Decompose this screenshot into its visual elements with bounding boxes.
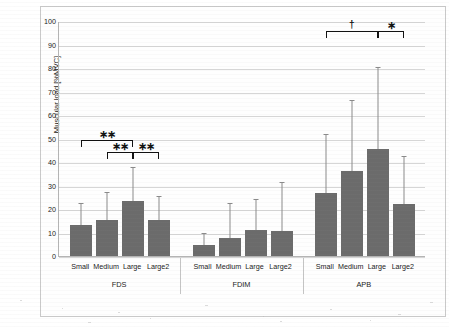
- error-bar-cap: [157, 196, 162, 197]
- scan-speck: [398, 314, 401, 315]
- bar-group-item: [271, 21, 293, 256]
- y-axis-tick-label: 70: [30, 89, 56, 96]
- bar: [341, 171, 363, 256]
- bar-group-item: [393, 21, 415, 256]
- error-bar: [81, 204, 82, 225]
- error-bar-cap: [279, 182, 284, 183]
- group-separator: [303, 258, 304, 294]
- error-bar: [133, 168, 134, 201]
- bar-group-item: [193, 21, 215, 256]
- scan-speck: [370, 320, 371, 321]
- category-label: Large2: [258, 262, 304, 271]
- bar-group-item: [341, 21, 363, 256]
- scan-speck: [205, 305, 208, 306]
- bar: [96, 220, 118, 256]
- bar-group-item: [315, 21, 337, 256]
- plot-area: ∗∗∗∗∗∗†∗: [58, 22, 425, 257]
- y-axis-tick-label: 30: [30, 183, 56, 190]
- bar: [245, 230, 267, 256]
- scan-speck: [430, 302, 433, 303]
- error-bar-cap: [131, 167, 136, 168]
- significance-bracket: [107, 152, 133, 159]
- significance-marker: ∗: [358, 20, 424, 31]
- group-label: FDS: [59, 280, 179, 289]
- group-separator: [180, 258, 181, 294]
- y-axis-tick-labels: 0102030405060708090100: [26, 22, 56, 257]
- bar: [148, 220, 170, 256]
- error-bar: [255, 200, 256, 231]
- figure-container: Muscular load [%MVC] 0102030405060708090…: [0, 0, 449, 330]
- error-bar-cap: [323, 134, 328, 135]
- significance-marker: ∗∗: [113, 141, 179, 152]
- error-bar: [377, 68, 378, 149]
- error-bar: [159, 197, 160, 219]
- y-axis-tick-label: 20: [30, 206, 56, 213]
- error-bar-cap: [105, 192, 110, 193]
- category-label: Large2: [135, 262, 181, 271]
- y-axis-tick-label: 40: [30, 159, 56, 166]
- error-bar-cap: [401, 156, 406, 157]
- bar-group-item: [367, 21, 389, 256]
- scan-speck: [20, 300, 22, 301]
- significance-marker: ∗∗: [61, 129, 153, 140]
- bar: [219, 238, 241, 256]
- y-axis-tick-label: 90: [30, 42, 56, 49]
- error-bar: [403, 157, 404, 204]
- scan-speck: [88, 322, 91, 323]
- gridline: [59, 257, 425, 258]
- bar: [315, 193, 337, 256]
- y-axis-tick-label: 10: [30, 230, 56, 237]
- bar: [122, 201, 144, 256]
- scan-speck: [150, 318, 151, 319]
- error-bar: [107, 193, 108, 220]
- scan-speck: [62, 308, 63, 309]
- error-bar: [203, 234, 204, 246]
- error-bar-cap: [201, 233, 206, 234]
- scan-speck: [118, 312, 120, 313]
- error-bar-cap: [375, 67, 380, 68]
- group-label: FDIM: [182, 280, 302, 289]
- scan-speck: [263, 316, 264, 317]
- y-axis-tick-label: 80: [30, 65, 56, 72]
- error-bar: [325, 135, 326, 193]
- bar: [70, 225, 92, 256]
- bar: [193, 245, 215, 256]
- category-label: Large2: [380, 262, 426, 271]
- y-axis-tick-label: 60: [30, 112, 56, 119]
- error-bar: [281, 183, 282, 231]
- bar: [393, 204, 415, 256]
- scan-speck: [330, 309, 332, 310]
- y-axis-tick-label: 0: [30, 253, 56, 260]
- group-label: APB: [304, 280, 424, 289]
- y-axis-tick-label: 100: [30, 18, 56, 25]
- bar: [271, 231, 293, 256]
- significance-bracket: [133, 152, 159, 159]
- error-bar-cap: [79, 203, 84, 204]
- error-bar-cap: [349, 100, 354, 101]
- bar: [367, 149, 389, 256]
- y-axis-tick-label: 50: [30, 136, 56, 143]
- error-bar-cap: [253, 199, 258, 200]
- error-bar: [351, 101, 352, 172]
- significance-bracket: [326, 31, 378, 38]
- bar-group-item: [245, 21, 267, 256]
- bar-group-item: [219, 21, 241, 256]
- significance-bracket: [378, 31, 404, 38]
- scan-speck: [280, 321, 282, 322]
- error-bar: [229, 204, 230, 238]
- error-bar-cap: [227, 203, 232, 204]
